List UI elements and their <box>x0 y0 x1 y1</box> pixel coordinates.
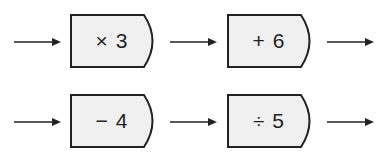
row-1: × 3 + 6 <box>0 14 379 70</box>
operation-label: − 4 <box>70 94 154 148</box>
operation-box-subtract-4: − 4 <box>70 94 162 148</box>
arrow-icon <box>170 37 218 47</box>
arrow-icon <box>14 37 62 47</box>
arrow-icon <box>14 117 62 127</box>
operation-label: + 6 <box>227 14 311 68</box>
operation-box-divide-5: ÷ 5 <box>227 94 319 148</box>
arrow-icon <box>327 117 375 127</box>
operation-label: × 3 <box>70 14 154 68</box>
operation-box-add-6: + 6 <box>227 14 319 68</box>
arrow-icon <box>327 37 375 47</box>
operation-box-multiply-3: × 3 <box>70 14 162 68</box>
operation-label: ÷ 5 <box>227 94 311 148</box>
row-2: − 4 ÷ 5 <box>0 94 379 150</box>
arrow-icon <box>170 117 218 127</box>
